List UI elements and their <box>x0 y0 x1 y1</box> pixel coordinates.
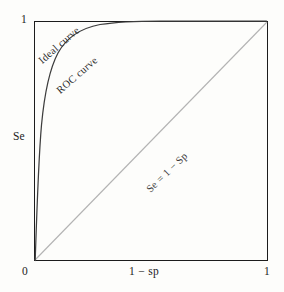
roc-curve-figure: 1 Se 0 1 − sp 1 Ideal curve ROC curve Se… <box>0 0 284 292</box>
y-axis-tick-top: 1 <box>21 13 27 25</box>
x-axis-tick-left: 0 <box>22 265 28 277</box>
plot-frame <box>34 21 268 261</box>
x-axis-title: 1 − sp <box>129 265 159 277</box>
y-axis-label-se: Se <box>13 130 25 142</box>
x-axis-tick-right: 1 <box>264 265 270 277</box>
